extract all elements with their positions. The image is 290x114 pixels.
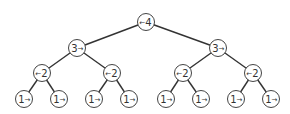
arrow-right-icon: → — [167, 96, 173, 104]
tree-node: ←2 — [34, 65, 51, 82]
tree-node: →1 — [263, 91, 280, 108]
tree-nodes: ←4→3→3←2←2←2←2→1→1→1→1→1→1→1→1 — [16, 14, 280, 108]
node-value: 1 — [18, 94, 24, 105]
arrow-right-icon: → — [95, 96, 101, 104]
arrow-right-icon: → — [78, 45, 84, 53]
tree-node: ←4 — [138, 14, 155, 31]
node-value: 2 — [41, 68, 47, 79]
node-value: 3 — [212, 43, 218, 54]
arrow-right-icon: → — [272, 96, 278, 104]
node-value: 1 — [88, 94, 94, 105]
tree-edges — [24, 22, 271, 99]
arrow-right-icon: → — [60, 96, 66, 104]
node-value: 2 — [182, 68, 188, 79]
tree-node: →1 — [51, 91, 68, 108]
tree-node: →3 — [69, 40, 86, 57]
tree-node: ←2 — [104, 65, 121, 82]
tree-node: →1 — [121, 91, 138, 108]
tree-node: →1 — [158, 91, 175, 108]
node-value: 4 — [145, 17, 151, 28]
binary-tree-diagram: ←4→3→3←2←2←2←2→1→1→1→1→1→1→1→1 — [0, 0, 290, 114]
tree-node: ←2 — [175, 65, 192, 82]
tree-edge — [77, 22, 146, 48]
tree-node: ←2 — [245, 65, 262, 82]
arrow-right-icon: → — [219, 45, 225, 53]
node-value: 1 — [195, 94, 201, 105]
tree-edge — [146, 22, 218, 48]
tree-node: →1 — [16, 91, 33, 108]
tree-node: →1 — [228, 91, 245, 108]
node-value: 1 — [230, 94, 236, 105]
node-value: 3 — [71, 43, 77, 54]
arrow-right-icon: → — [237, 96, 243, 104]
arrow-right-icon: → — [130, 96, 136, 104]
node-value: 1 — [123, 94, 129, 105]
node-value: 1 — [160, 94, 166, 105]
tree-node: →3 — [210, 40, 227, 57]
tree-node: →1 — [86, 91, 103, 108]
arrow-right-icon: → — [25, 96, 31, 104]
node-value: 1 — [53, 94, 59, 105]
tree-node: →1 — [193, 91, 210, 108]
node-value: 2 — [252, 68, 258, 79]
arrow-right-icon: → — [202, 96, 208, 104]
node-value: 2 — [111, 68, 117, 79]
node-value: 1 — [265, 94, 271, 105]
